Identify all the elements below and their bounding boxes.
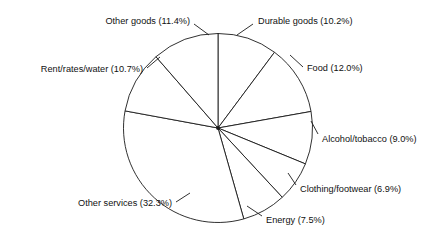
pie-slice-label: Food (12.0%) [307, 63, 363, 73]
chart-page: Durable goods (10.2%)Food (12.0%)Alcohol… [0, 0, 448, 242]
label-leader-line [194, 24, 209, 35]
label-leader-line [290, 55, 303, 67]
pie-slice-label: Other goods (11.4%) [105, 16, 190, 26]
pie-slice-label: Other services (32.3%) [78, 198, 172, 208]
pie-slice-label: Energy (7.5%) [266, 215, 325, 225]
label-leader-line [237, 24, 253, 35]
pie-slice-label: Rent/rates/water (10.7%) [41, 64, 143, 74]
pie-chart: Durable goods (10.2%)Food (12.0%)Alcohol… [0, 0, 448, 242]
pie-slice-label: Durable goods (10.2%) [258, 16, 352, 26]
pie-center-marker [216, 126, 220, 130]
pie-slice-label: Clothing/footwear (6.9%) [300, 184, 401, 194]
pie-slice-label: Alcohol/tobacco (9.0%) [322, 134, 416, 144]
